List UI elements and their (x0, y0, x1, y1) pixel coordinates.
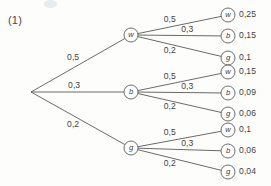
leaf-value-2: 0,1 (239, 52, 251, 62)
tree-nodes (124, 8, 235, 179)
leaf-value-7: 0,06 (239, 145, 256, 155)
edge-label-b-b-4: 0,3 (181, 81, 193, 91)
node-letter-w: w (124, 28, 138, 42)
node-letter-w: w (221, 8, 235, 22)
leaf-value-4: 0,09 (239, 87, 256, 97)
edge-w-w-0 (138, 16, 221, 33)
edge-w-g-2 (138, 37, 221, 57)
edge-label-root-b: 0,3 (68, 80, 80, 90)
edge-label-g-g-8: 0,2 (164, 158, 176, 168)
edge-label-root-w: 0,5 (67, 52, 79, 62)
node-letter-w: w (221, 123, 235, 137)
node-letter-g: g (221, 107, 235, 121)
edge-g-b-7 (138, 148, 221, 151)
node-letter-g: g (221, 51, 235, 65)
node-letter-g: g (221, 165, 235, 179)
node-letter-b: b (221, 144, 235, 158)
edge-w-b-1 (138, 35, 221, 36)
leaf-value-8: 0,04 (239, 166, 256, 176)
edge-label-w-w-0: 0,5 (164, 14, 176, 24)
node-letter-b: b (221, 86, 235, 100)
edge-label-w-g-2: 0,2 (164, 45, 176, 55)
leaf-value-5: 0,06 (239, 108, 256, 118)
edge-label-b-g-5: 0,2 (164, 101, 176, 111)
edge-g-w-6 (138, 131, 221, 146)
leaf-value-0: 0,25 (239, 9, 256, 19)
leaf-value-6: 0,1 (239, 124, 251, 134)
node-letter-g: g (124, 141, 138, 155)
edge-label-root-g: 0,2 (67, 119, 79, 129)
edge-label-g-b-7: 0,3 (181, 138, 193, 148)
figure-canvas: (1) wbgwbgwbgwbg0,50,30,20,50,30,20,50,3… (0, 0, 271, 186)
leaf-value-3: 0,15 (239, 66, 256, 76)
edge-b-b-4 (138, 92, 221, 93)
edge-b-g-5 (138, 94, 221, 113)
edge-b-w-3 (138, 73, 221, 90)
node-letter-b: b (124, 85, 138, 99)
edge-label-g-w-6: 0,5 (164, 127, 176, 137)
leaf-value-1: 0,15 (239, 30, 256, 40)
node-letter-b: b (221, 29, 235, 43)
edge-label-w-b-1: 0,3 (181, 24, 193, 34)
node-letter-w: w (221, 65, 235, 79)
edge-g-g-8 (138, 150, 221, 171)
edge-label-b-w-3: 0,5 (164, 71, 176, 81)
